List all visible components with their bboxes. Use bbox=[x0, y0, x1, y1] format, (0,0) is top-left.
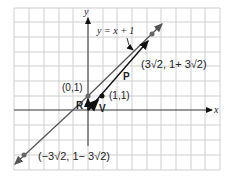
vector-V bbox=[88, 100, 98, 110]
upper-point-label: (3√2, 1+ 3√2) bbox=[141, 59, 207, 70]
point-unit bbox=[100, 94, 105, 99]
x-axis-label: x bbox=[214, 105, 218, 115]
lower-point-label: (−3√2, 1− 3√2) bbox=[38, 151, 110, 162]
unit-point-label: (1,1) bbox=[109, 91, 130, 101]
point-intercept bbox=[86, 94, 91, 99]
vector-P-label: P bbox=[123, 72, 130, 82]
line-equation-label: y = x + 1 bbox=[97, 26, 134, 36]
point-upper bbox=[150, 32, 155, 37]
vector-R-label: R bbox=[76, 101, 83, 111]
point-lower bbox=[22, 153, 27, 158]
vector-V-label: V bbox=[99, 104, 106, 114]
y-axis-label: y bbox=[84, 7, 88, 17]
intercept-label: (0,1) bbox=[62, 83, 83, 93]
